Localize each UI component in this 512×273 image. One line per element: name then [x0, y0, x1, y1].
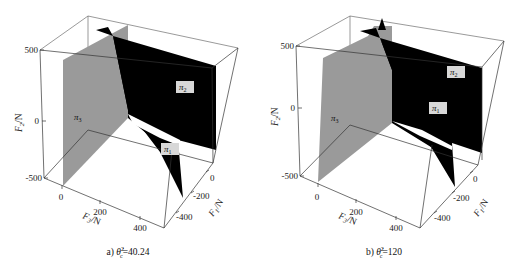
tick-y-minus-400: -400 — [434, 213, 451, 223]
tick-x-400: 400 — [133, 223, 147, 233]
tick-y-minus-400: -400 — [176, 212, 193, 222]
tick-y-minus-200: -200 — [193, 191, 210, 201]
z-axis-title: F2/N — [14, 113, 25, 133]
tick-y-minus-200: -200 — [453, 193, 470, 203]
tick-z-minus-500: -500 — [282, 171, 299, 181]
plot-3d-a: 500 0 -500 F2/N 0 200 400 F3/N 0 -200 -4… — [0, 0, 256, 273]
tick-z-500: 500 — [25, 45, 39, 55]
tag-pi1: π1 — [161, 143, 179, 155]
tick-z-0: 0 — [291, 103, 296, 113]
tag-pi2: π2 — [176, 81, 194, 93]
tick-x-0: 0 — [59, 192, 64, 202]
caption-a: a) θ̇2c=40.24 — [0, 246, 256, 259]
tick-z-0: 0 — [35, 116, 40, 126]
z-ticks — [296, 46, 304, 176]
y-axis-title: F1/N — [471, 197, 491, 219]
z-ticks — [40, 50, 48, 178]
caption-b: b) θ̇2c=120 — [256, 246, 512, 259]
tick-z-minus-500: -500 — [26, 173, 43, 183]
plane-spike — [378, 18, 386, 30]
tick-y-0: 0 — [210, 173, 215, 183]
tick-x-400: 400 — [389, 223, 403, 233]
z-axis-title: F2/N — [270, 107, 281, 127]
panel-b: 500 0 -500 F2/N 0 200 400 F3/N 0 -200 -4… — [256, 0, 512, 273]
panel-a: 500 0 -500 F2/N 0 200 400 F3/N 0 -200 -4… — [0, 0, 256, 273]
tick-z-500: 500 — [281, 41, 295, 51]
tick-y-0: 0 — [473, 174, 478, 184]
plot-3d-b: 500 0 -500 F2/N 0 200 400 F3/N 0 -200 -4… — [256, 0, 512, 273]
tag-pi2: π2 — [447, 66, 465, 78]
tick-x-0: 0 — [315, 192, 320, 202]
tag-pi1: π1 — [429, 102, 447, 114]
